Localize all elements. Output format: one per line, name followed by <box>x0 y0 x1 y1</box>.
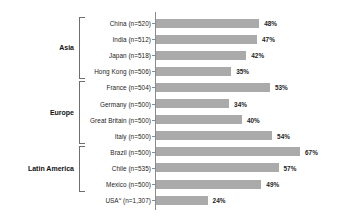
group-bracket <box>79 17 85 79</box>
category-label: Hong Kong (n=506) <box>94 64 151 80</box>
category-label: Great Britain (n=500) <box>90 113 151 129</box>
bar-row: India (n=512)47% <box>0 32 349 48</box>
value-label: 48% <box>264 16 277 32</box>
bar <box>156 99 229 108</box>
category-label: India (n=512) <box>113 32 152 48</box>
bar <box>156 147 300 156</box>
value-label: 67% <box>305 145 318 161</box>
axis-tick <box>152 71 155 72</box>
plot-area: China (n=520)48%India (n=512)47%Japan (n… <box>0 0 349 217</box>
group-bracket <box>79 81 85 143</box>
group-label: Asia <box>59 43 74 53</box>
bar <box>156 67 231 76</box>
bar-row: China (n=520)48% <box>0 16 349 32</box>
group-bracket <box>79 146 85 192</box>
axis-tick <box>152 23 155 24</box>
bar <box>156 131 272 140</box>
bar <box>156 51 246 60</box>
value-label: 24% <box>213 193 226 209</box>
bar-row: Brazil (n=500)67% <box>0 145 349 161</box>
category-label: Italy (n=500) <box>115 129 151 145</box>
value-label: 40% <box>247 113 260 129</box>
axis-tick <box>152 87 155 88</box>
bar-row: Japan (n=518)42% <box>0 48 349 64</box>
value-label: 34% <box>234 97 247 113</box>
footnote-marker: a <box>119 196 122 201</box>
bar-row: France (n=504)53% <box>0 80 349 96</box>
axis-tick <box>152 39 155 40</box>
category-label: Mexico (n=500) <box>106 177 151 193</box>
axis-tick <box>152 136 155 137</box>
bar-row: Mexico (n=500)49% <box>0 177 349 193</box>
axis-tick <box>152 168 155 169</box>
axis-tick <box>152 120 155 121</box>
category-label: USAa (n=1,307) <box>105 193 151 209</box>
axis-tick <box>152 200 155 201</box>
bar <box>156 83 270 92</box>
value-label: 35% <box>236 64 249 80</box>
bar-chart: China (n=520)48%India (n=512)47%Japan (n… <box>0 0 349 217</box>
bar <box>156 19 259 28</box>
value-label: 47% <box>262 32 275 48</box>
bar <box>156 196 208 205</box>
axis-tick <box>152 55 155 56</box>
bar-row: Hong Kong (n=506)35% <box>0 64 349 80</box>
axis-tick <box>152 104 155 105</box>
value-label: 54% <box>277 129 290 145</box>
group-label: Latin America <box>28 164 74 174</box>
axis-tick <box>152 152 155 153</box>
group-label: Europe <box>50 108 74 118</box>
category-label: Japan (n=518) <box>109 48 151 64</box>
category-label: France (n=504) <box>106 80 151 96</box>
value-label: 53% <box>275 80 288 96</box>
category-label: Chile (n=535) <box>112 161 151 177</box>
category-label: Germany (n=500) <box>100 97 151 113</box>
bar <box>156 115 242 124</box>
value-label: 49% <box>266 177 279 193</box>
bar-row: Italy (n=500)54% <box>0 129 349 145</box>
bar <box>156 35 257 44</box>
bar <box>156 180 261 189</box>
category-label: China (n=520) <box>110 16 151 32</box>
bar-row: USAa (n=1,307)24% <box>0 193 349 209</box>
value-label: 42% <box>251 48 264 64</box>
axis-tick <box>152 184 155 185</box>
value-label: 57% <box>284 161 297 177</box>
bar <box>156 163 279 172</box>
category-label: Brazil (n=500) <box>110 145 151 161</box>
